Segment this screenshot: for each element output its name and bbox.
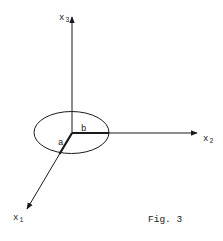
coordinate-diagram: x3 x2 x1 b a Fig. 3: [0, 0, 223, 241]
segment-a-label: a: [58, 138, 64, 148]
x1-label: x1: [13, 213, 23, 224]
x3-label: x3: [59, 13, 69, 24]
figure-caption: Fig. 3: [148, 214, 183, 225]
x2-label: x2: [203, 134, 213, 145]
segment-b-label: b: [81, 124, 86, 134]
